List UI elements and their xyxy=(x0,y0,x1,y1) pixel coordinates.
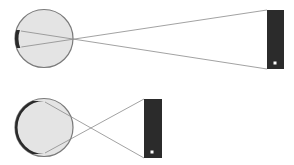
object-marker-dot xyxy=(274,62,277,65)
viewed-object xyxy=(267,10,284,69)
object-marker-dot xyxy=(151,151,154,154)
eyeball xyxy=(15,10,73,68)
visual-angle-diagram xyxy=(0,0,294,165)
viewed-object xyxy=(144,99,162,158)
near-object-panel xyxy=(15,99,162,159)
far-object-panel xyxy=(15,10,284,70)
